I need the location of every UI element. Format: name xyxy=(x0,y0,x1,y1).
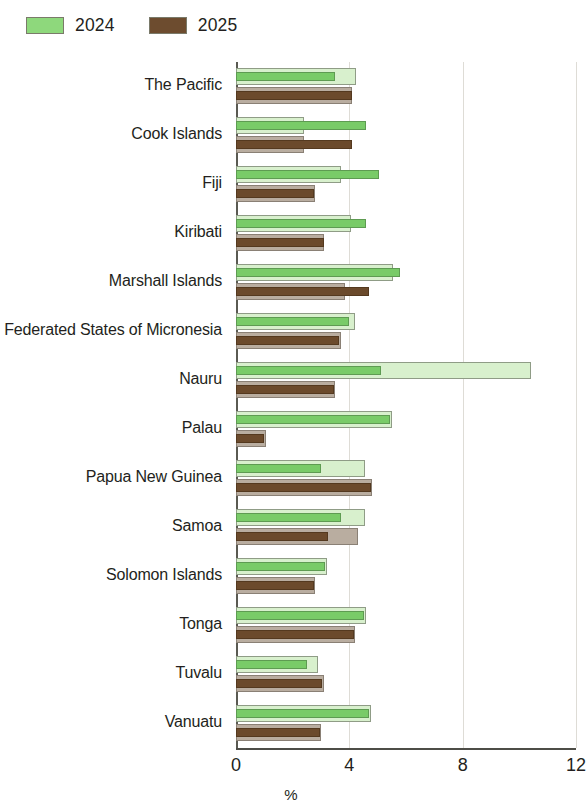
bar-group xyxy=(236,62,576,111)
y-axis-label: Tonga xyxy=(179,615,222,633)
y-axis-label: Palau xyxy=(182,419,222,437)
bar-2024-inner xyxy=(236,366,381,375)
y-axis-label: Federated States of Micronesia xyxy=(4,321,222,339)
y-axis-label: Cook Islands xyxy=(131,125,222,143)
bar-2024-inner xyxy=(236,513,341,522)
y-axis-label: Vanuatu xyxy=(165,713,222,731)
legend-label-2024: 2024 xyxy=(75,15,115,36)
y-axis-label: Papua New Guinea xyxy=(86,468,222,486)
bar-2024-inner xyxy=(236,611,364,620)
bar-2025-inner xyxy=(236,140,352,149)
x-axis-tick-labels: 04812 xyxy=(236,755,582,781)
bar-2025-inner xyxy=(236,630,354,639)
bar-2024-inner xyxy=(236,562,325,571)
bar-2025-inner xyxy=(236,91,352,100)
bar-2024-inner xyxy=(236,464,321,473)
bar-group xyxy=(236,503,576,552)
bar-2024-inner xyxy=(236,72,335,81)
legend-label-2025: 2025 xyxy=(198,15,238,36)
x-tick-label-4: 4 xyxy=(344,755,354,776)
bar-group xyxy=(236,601,576,650)
x-tick-label-8: 8 xyxy=(458,755,468,776)
bar-group xyxy=(236,258,576,307)
y-axis-labels: The PacificCook IslandsFijiKiribatiMarsh… xyxy=(0,62,230,750)
y-axis-label: Samoa xyxy=(172,517,222,535)
x-tick-label-0: 0 xyxy=(231,755,241,776)
y-axis-label: Tuvalu xyxy=(175,664,222,682)
bar-2024-inner xyxy=(236,121,366,130)
y-axis-label: The Pacific xyxy=(145,76,223,94)
y-axis-label: Nauru xyxy=(179,370,222,388)
bar-2024-inner xyxy=(236,268,400,277)
bar-2025-inner xyxy=(236,287,369,296)
bar-2025-inner xyxy=(236,336,339,345)
bar-2024-inner xyxy=(236,709,369,718)
bar-2025-inner xyxy=(236,581,314,590)
bar-2025-inner xyxy=(236,385,334,394)
x-axis-title: % xyxy=(0,786,582,803)
y-axis-label: Fiji xyxy=(202,174,222,192)
legend-item-2025: 2025 xyxy=(149,15,238,36)
bar-2024-inner xyxy=(236,660,307,669)
bar-group xyxy=(236,552,576,601)
bar-group xyxy=(236,209,576,258)
bar-group xyxy=(236,454,576,503)
legend-item-2024: 2024 xyxy=(26,15,115,36)
bar-2025-inner xyxy=(236,483,371,492)
bar-2024-inner xyxy=(236,317,349,326)
bar-2025-inner xyxy=(236,728,320,737)
legend-swatch-icon-2024 xyxy=(26,17,64,34)
legend-swatch-icon-2025 xyxy=(149,17,187,34)
bar-group xyxy=(236,650,576,699)
plot-area xyxy=(236,62,576,750)
x-axis-line xyxy=(236,748,576,750)
bar-2025-inner xyxy=(236,189,314,198)
chart-legend: 2024 2025 xyxy=(26,12,271,38)
x-tick-label-12: 12 xyxy=(566,755,586,776)
bar-2024-inner xyxy=(236,219,366,228)
bar-2025-inner xyxy=(236,238,324,247)
bar-group xyxy=(236,356,576,405)
bar-group xyxy=(236,160,576,209)
bar-group xyxy=(236,307,576,356)
bar-2024-inner xyxy=(236,170,379,179)
bar-group xyxy=(236,405,576,454)
bar-2024-inner xyxy=(236,415,390,424)
y-axis-label: Solomon Islands xyxy=(106,566,222,584)
y-axis-label: Kiribati xyxy=(174,223,222,241)
bar-2025-inner xyxy=(236,679,322,688)
y-axis-label: Marshall Islands xyxy=(109,272,222,290)
bar-group xyxy=(236,111,576,160)
bar-group xyxy=(236,699,576,748)
bar-2025-inner xyxy=(236,532,328,541)
gridline-12 xyxy=(576,62,577,748)
bar-2025-inner xyxy=(236,434,264,443)
